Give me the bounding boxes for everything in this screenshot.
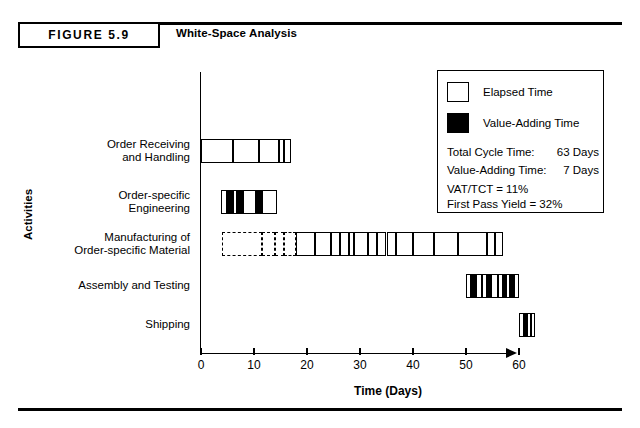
elapsed-time-swatch-icon xyxy=(447,82,469,102)
legend-stat-label: Total Cycle Time: xyxy=(447,146,535,158)
bar-segment-elapsed[interactable] xyxy=(262,190,277,214)
x-axis-tick xyxy=(518,348,519,355)
x-axis-tick-label: 20 xyxy=(287,358,327,372)
activity-label-line: and Handling xyxy=(0,151,190,165)
x-axis-tick-label: 30 xyxy=(340,358,380,372)
bar-segment-elapsed[interactable] xyxy=(259,139,279,163)
bar-segment-elapsed[interactable] xyxy=(340,232,350,256)
bar-segment-elapsed[interactable] xyxy=(243,190,256,214)
legend-note-vat-tct: VAT/TCT = 11% xyxy=(447,183,528,195)
legend-stat-label: Value-Adding Time: xyxy=(447,164,547,176)
x-axis-title-text: Time (Days) xyxy=(354,384,422,398)
x-axis-tick xyxy=(200,348,201,355)
value-adding-time-swatch-icon xyxy=(447,113,469,133)
activity-label-line: Order-specific Material xyxy=(0,244,190,258)
bar-segment-elapsed[interactable] xyxy=(262,232,275,256)
chart-legend: Elapsed Time Value-Adding Time Total Cyc… xyxy=(437,70,604,213)
bar-segment-elapsed[interactable] xyxy=(413,232,434,256)
bar-segment-elapsed[interactable] xyxy=(233,139,260,163)
bar-segment-elapsed[interactable] xyxy=(284,139,291,163)
bar-segment-elapsed[interactable] xyxy=(222,232,262,256)
x-axis-tick xyxy=(359,348,360,355)
x-axis-title: Time (Days) xyxy=(0,384,640,398)
bar-segment-elapsed[interactable] xyxy=(368,232,378,256)
legend-label-elapsed: Elapsed Time xyxy=(483,86,553,98)
x-axis-tick xyxy=(465,348,466,355)
chart-plot-area: 0102030405060 Order Receivingand Handlin… xyxy=(0,0,640,428)
x-axis-tick xyxy=(412,348,413,355)
bar-segment-elapsed[interactable] xyxy=(377,232,386,256)
bar-segment-elapsed[interactable] xyxy=(487,232,495,256)
bar-segment-elapsed[interactable] xyxy=(296,232,315,256)
legend-stat-value: 7 Days xyxy=(563,164,599,176)
bar-segment-elapsed[interactable] xyxy=(387,232,397,256)
y-axis-title: Activities xyxy=(22,189,34,240)
bar-segment-elapsed[interactable] xyxy=(458,232,487,256)
bar-segment-elapsed[interactable] xyxy=(275,232,283,256)
legend-label-value-adding: Value-Adding Time xyxy=(483,117,579,129)
legend-stat-value: 63 Days xyxy=(557,146,599,158)
x-axis-tick-label: 50 xyxy=(446,358,486,372)
x-axis-line xyxy=(200,353,508,354)
x-axis-tick xyxy=(253,348,254,355)
activity-label-line: Order Receiving xyxy=(0,138,190,152)
bar-segment-elapsed[interactable] xyxy=(396,232,413,256)
legend-entry-value-adding: Value-Adding Time xyxy=(447,113,579,133)
bar-segment-elapsed[interactable] xyxy=(284,232,297,256)
figure-container: FIGURE 5.9 White-Space Analysis 01020304… xyxy=(0,0,640,428)
legend-entry-elapsed: Elapsed Time xyxy=(447,82,553,102)
activity-label-line: Shipping xyxy=(0,318,190,332)
x-axis-arrowhead xyxy=(506,348,517,358)
bar-segment-elapsed[interactable] xyxy=(201,139,233,163)
legend-stat-value-adding-time: Value-Adding Time: 7 Days xyxy=(447,164,599,176)
activity-label: Order Receivingand Handling xyxy=(0,138,190,165)
legend-stat-total-cycle-time: Total Cycle Time: 63 Days xyxy=(447,146,599,158)
x-axis-tick-label: 40 xyxy=(393,358,433,372)
activity-label: Assembly and Testing xyxy=(0,279,190,293)
bar-segment-elapsed[interactable] xyxy=(315,232,331,256)
bar-segment-elapsed[interactable] xyxy=(354,232,368,256)
bar-segment-elapsed[interactable] xyxy=(531,313,535,337)
activity-label: Shipping xyxy=(0,318,190,332)
x-axis-tick-label: 60 xyxy=(499,358,539,372)
bar-segment-elapsed[interactable] xyxy=(331,232,340,256)
x-axis-tick-label: 0 xyxy=(181,358,221,372)
x-axis-tick-label: 10 xyxy=(234,358,274,372)
legend-note-first-pass-yield: First Pass Yield = 32% xyxy=(447,198,562,210)
bar-segment-elapsed[interactable] xyxy=(514,274,519,298)
bar-segment-elapsed[interactable] xyxy=(434,232,458,256)
figure-bottom-rule xyxy=(18,408,622,411)
bar-segment-elapsed[interactable] xyxy=(495,232,503,256)
activity-label-line: Assembly and Testing xyxy=(0,279,190,293)
x-axis-tick xyxy=(306,348,307,355)
